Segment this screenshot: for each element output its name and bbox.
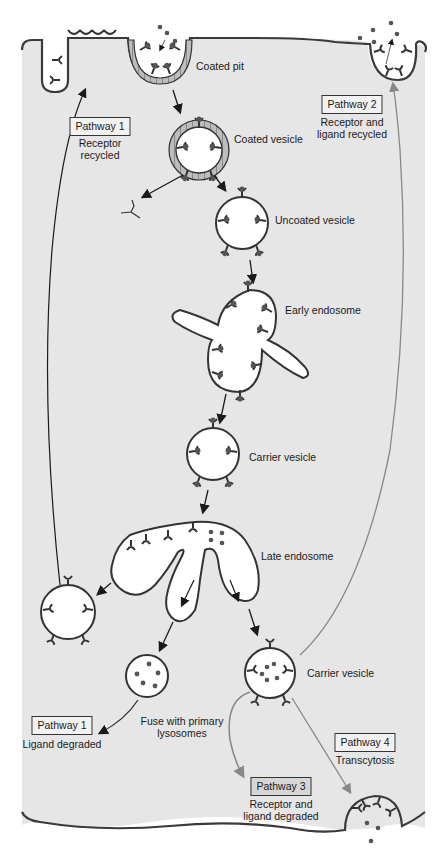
label-coated-pit: Coated pit [196,60,244,72]
pathway-3-box: Pathway 3 [250,777,311,796]
label-late-endosome: Late endosome [261,550,333,562]
lysosome-vesicle [126,655,168,697]
pathway-1-top-desc: Receptor recycled [79,137,122,161]
pathway-1-top-box: Pathway 1 [69,117,130,136]
label-fuse-lysosomes: Fuse with primary lysosomes [141,715,224,739]
pathway-1-bottom-box: Pathway 1 [31,716,92,735]
pathway-2-box: Pathway 2 [321,95,382,114]
surface-receptors [68,30,116,34]
pathway-4-desc: Transcytosis [336,754,395,766]
label-early-endosome: Early endosome [285,304,361,316]
label-carrier-vesicle-2: Carrier vesicle [307,667,374,679]
label-carrier-vesicle-1: Carrier vesicle [249,451,316,463]
pathway-2-desc: Receptor and ligand recycled [317,116,387,140]
pathway-4-box: Pathway 4 [334,733,395,752]
label-coated-vesicle: Coated vesicle [234,133,303,145]
pathway-3-desc: Receptor and ligand degraded [243,798,318,822]
pathway-1-bottom-desc: Ligand degraded [23,738,102,750]
label-uncoated-vesicle: Uncoated vesicle [275,214,355,226]
